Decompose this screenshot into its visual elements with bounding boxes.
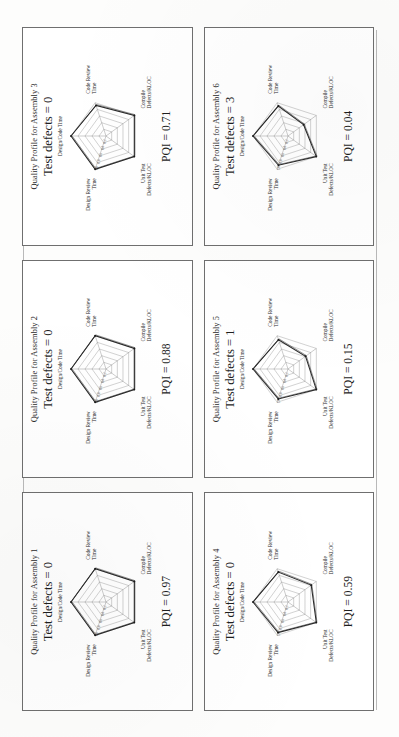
radar-axis-label: Time [272, 548, 278, 560]
radar-data-point [94, 634, 96, 636]
radar-data-point [277, 398, 279, 400]
radar-data-point [277, 631, 279, 633]
radar-tick-label: 0.4 [283, 611, 287, 615]
radar-spoke [288, 348, 316, 369]
radar-tick-label: 0.6 [280, 153, 284, 157]
radar-axis-label: Design/Code Time [239, 116, 245, 157]
radar-series-shadow [72, 335, 135, 402]
panel-title: Quality Profile for Assembly 3 [30, 28, 39, 245]
quality-profile-panel: Quality Profile for Assembly 4Test defec… [204, 492, 375, 711]
radar-axis-label: Design/Code Time [239, 348, 245, 389]
radar-chart: 0.20.40.60.81.0Design/Code TimeCode Revi… [236, 61, 340, 211]
radar-axis-label: Defects/KLOC [327, 629, 333, 662]
scanned-page: Quality Profile for Assembly 1Test defec… [0, 0, 399, 737]
radar-chart: 0.20.40.60.81.0Design/Code TimeCode Revi… [54, 527, 158, 677]
quality-profile-panel: Quality Profile for Assembly 5Test defec… [204, 260, 375, 479]
radar-axis-label: Defects/KLOC [327, 163, 333, 196]
radar-series [253, 340, 316, 399]
pqi-label: PQI = 0.71 [160, 28, 173, 245]
pqi-label: PQI = 0.97 [160, 493, 173, 710]
radar-spoke [95, 568, 106, 601]
radar-chart-container: 0.20.40.60.81.0Design/Code TimeCode Revi… [236, 28, 340, 245]
radar-data-point [133, 347, 135, 349]
radar-axis-label: Time [272, 315, 278, 327]
pqi-label: PQI = 0.59 [342, 493, 355, 710]
radar-data-point [94, 401, 96, 403]
radar-data-point [277, 339, 279, 341]
radar-tick-label: 0.4 [101, 379, 105, 383]
radar-data-point [70, 601, 72, 603]
radar-axis-label: Defects/KLOC [327, 542, 333, 575]
radar-axis-label: Defects/KLOC [146, 396, 152, 429]
radar-spoke [288, 369, 316, 390]
radar-chart: 0.20.40.60.81.0Design/Code TimeCode Revi… [236, 294, 340, 444]
radar-series-shadow [72, 568, 135, 635]
radar-axis-label: Defects/KLOC [146, 629, 152, 662]
radar-axis-label: Time [91, 315, 97, 327]
radar-data-point [252, 135, 254, 137]
radar-data-point [70, 368, 72, 370]
radar-chart-container: 0.20.40.60.81.0Design/Code TimeCode Revi… [236, 493, 340, 710]
radar-data-point [315, 621, 317, 623]
radar-axis-label: Time [272, 411, 278, 423]
radar-data-point [277, 165, 279, 167]
radar-data-point [133, 156, 135, 158]
radar-series-shadow [253, 339, 316, 398]
radar-data-point [315, 156, 317, 158]
panel-title: Quality Profile for Assembly 1 [30, 493, 39, 710]
radar-series [253, 572, 316, 633]
quality-profile-panel: Quality Profile for Assembly 6Test defec… [204, 27, 375, 246]
radar-spoke [106, 581, 134, 602]
radar-data-point [94, 335, 96, 337]
radar-data-point [315, 389, 317, 391]
radar-spoke [106, 602, 134, 623]
radar-tick-label: 0.8 [278, 159, 282, 163]
radar-tick-label: 0.2 [285, 372, 289, 376]
radar-chart-container: 0.20.40.60.81.0Design/Code TimeCode Revi… [54, 493, 158, 710]
radar-tick-label: 0.4 [101, 146, 105, 150]
radar-data-point [304, 355, 306, 357]
radar-chart-container: 0.20.40.60.81.0Design/Code TimeCode Revi… [54, 28, 158, 245]
radar-tick-label: 0.6 [99, 153, 103, 157]
radar-axis-label: Time [91, 548, 97, 560]
radar-series-shadow [72, 105, 135, 169]
radar-chart: 0.20.40.60.81.0Design/Code TimeCode Revi… [54, 294, 158, 444]
radar-tick-label: 0.6 [99, 385, 103, 389]
radar-data-point [94, 567, 96, 569]
quality-profile-panel: Quality Profile for Assembly 2Test defec… [22, 260, 193, 479]
pqi-label: PQI = 0.04 [342, 28, 355, 245]
radar-spoke [106, 136, 134, 157]
quality-profile-panel: Quality Profile for Assembly 3Test defec… [22, 27, 193, 246]
radar-data-point [310, 584, 312, 586]
radar-data-point [277, 105, 279, 107]
radar-axis-label: Time [91, 411, 97, 423]
radar-spoke [95, 336, 106, 369]
radar-chart: 0.20.40.60.81.0Design/Code TimeCode Revi… [54, 61, 158, 211]
radar-spoke [106, 369, 134, 390]
figure-stage: Quality Profile for Assembly 1Test defec… [0, 0, 399, 737]
radar-tick-label: 0.8 [97, 159, 101, 163]
panel-title: Quality Profile for Assembly 4 [212, 493, 221, 710]
radar-tick-label: 0.6 [280, 618, 284, 622]
radar-tick-label: 0.6 [280, 385, 284, 389]
pqi-label: PQI = 0.15 [342, 261, 355, 478]
quality-profile-panel: Quality Profile for Assembly 1Test defec… [22, 492, 193, 711]
radar-spoke [106, 348, 134, 369]
radar-axis-label: Design/Code Time [57, 581, 63, 622]
radar-tick-label: 0.8 [278, 392, 282, 396]
radar-tick-label: 1.0 [276, 166, 280, 170]
radar-data-point [133, 115, 135, 117]
radar-tick-label: 0.2 [285, 605, 289, 609]
radar-axis-label: Time [91, 82, 97, 94]
radar-tick-label: 0.2 [103, 372, 107, 376]
radar-chart: 0.20.40.60.81.0Design/Code TimeCode Revi… [236, 527, 340, 677]
radar-axis-label: Time [272, 178, 278, 190]
panel-grid: Quality Profile for Assembly 1Test defec… [22, 27, 374, 711]
radar-axis-label: Design/Code Time [57, 116, 63, 157]
radar-chart-container: 0.20.40.60.81.0Design/Code TimeCode Revi… [54, 261, 158, 478]
radar-tick-label: 0.8 [97, 392, 101, 396]
radar-series [71, 106, 134, 170]
radar-chart-container: 0.20.40.60.81.0Design/Code TimeCode Revi… [236, 261, 340, 478]
radar-tick-label: 0.8 [97, 625, 101, 629]
radar-axis-label: Time [272, 643, 278, 655]
